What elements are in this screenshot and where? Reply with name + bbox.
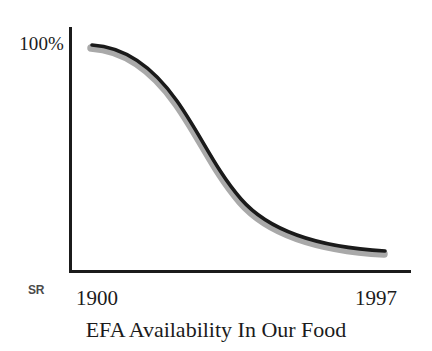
efa-availability-figure: 100% SR 1900 1997 EFA Availability In Ou… (0, 0, 432, 351)
sr-source-mark: SR (28, 283, 44, 297)
x-axis-start-label: 1900 (76, 286, 118, 311)
efa-decline-curve (92, 45, 385, 251)
figure-caption: EFA Availability In Our Food (0, 316, 432, 344)
curve-shadow-path (91, 48, 384, 254)
x-axis-end-label: 1997 (355, 286, 397, 311)
y-axis-max-label: 100% (8, 33, 64, 55)
